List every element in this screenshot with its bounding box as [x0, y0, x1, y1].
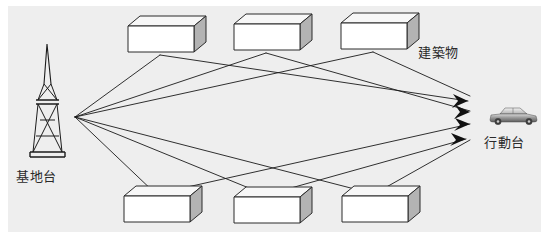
building-box-icon-bottom-3 — [342, 186, 420, 222]
ray-diagram-svg — [0, 0, 552, 249]
building-box-icon-top-1 — [128, 16, 206, 52]
transmission-tower-icon — [30, 44, 65, 157]
building-row-bottom — [124, 186, 420, 223]
receiver-arrowhead-group — [450, 94, 470, 146]
box-top-face — [128, 16, 206, 26]
car-hubcap-rear — [497, 120, 500, 123]
arrowhead-icon-3 — [454, 118, 470, 131]
base-station-label: 基地台 — [16, 170, 57, 183]
building-box-icon-bottom-1 — [124, 186, 202, 222]
car-photo-icon — [490, 108, 537, 125]
box-front-face — [342, 196, 408, 222]
box-top-face — [124, 186, 202, 196]
arrowhead-icon-1 — [452, 94, 468, 108]
building-row-top — [128, 13, 419, 52]
ray-tx-to-bottom-1 — [75, 117, 156, 194]
building-box-icon-top-3 — [341, 13, 419, 49]
ray-tx-to-top-2 — [75, 53, 266, 117]
building-label: 建築物 — [418, 46, 459, 59]
tower-waist-band — [36, 100, 59, 104]
box-top-face — [234, 187, 312, 197]
box-front-face — [124, 196, 190, 222]
reflected-rays-upper — [160, 52, 470, 111]
box-front-face — [234, 197, 300, 223]
box-front-face — [234, 24, 300, 50]
box-top-face — [342, 186, 420, 196]
box-front-face — [341, 23, 407, 49]
ray-bottom-1-to-rx — [156, 124, 470, 194]
box-top-face — [234, 14, 312, 24]
car-roof — [500, 108, 527, 114]
building-box-icon-top-2 — [234, 14, 312, 50]
outgoing-rays-upper — [75, 52, 373, 117]
tower-lower-section — [33, 104, 62, 152]
tower-spire — [44, 44, 51, 84]
ray-top-1-to-rx — [160, 55, 468, 101]
box-top-face — [341, 13, 419, 23]
outgoing-rays-lower — [75, 117, 374, 195]
ray-path-group — [75, 52, 470, 195]
reflected-rays-lower — [156, 124, 470, 195]
tower-base-plate — [30, 152, 65, 157]
mobile-station-label: 行動台 — [484, 136, 525, 149]
ray-tx-to-bottom-2 — [75, 117, 266, 195]
tower-upper-section — [38, 84, 57, 100]
car-hubcap-front — [528, 120, 531, 123]
box-front-face — [128, 26, 194, 52]
building-box-icon-bottom-2 — [234, 187, 312, 223]
multipath-propagation-figure: 基地台 建築物 行動台 — [0, 0, 552, 249]
